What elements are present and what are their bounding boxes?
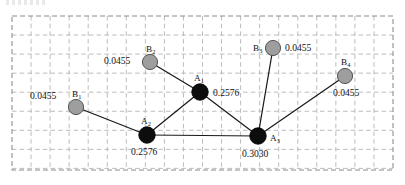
edge-b4-a3: [258, 76, 345, 136]
node-label-b3: B3: [253, 43, 262, 54]
node-a3[interactable]: [250, 128, 266, 144]
edge-a2-a3: [147, 135, 258, 136]
node-label-a1: A1: [194, 73, 204, 84]
node-a1[interactable]: [192, 84, 208, 100]
value-label-a1: 0.2576: [213, 87, 240, 98]
node-label-b2: B2: [146, 44, 155, 55]
node-b4[interactable]: [337, 68, 352, 83]
network-graph: A10.2576A20.2576A30.3030B10.0455B20.0455…: [0, 0, 405, 185]
value-label-b3: 0.0455: [285, 42, 312, 53]
node-b2[interactable]: [142, 54, 157, 69]
value-label-b4: 0.0455: [333, 87, 360, 98]
edge-a1-a3: [200, 92, 258, 136]
node-a2[interactable]: [139, 127, 155, 143]
value-label-b2: 0.0455: [104, 55, 131, 66]
node-b3[interactable]: [265, 40, 280, 55]
node-label-b4: B4: [341, 57, 351, 68]
value-label-b1: 0.0455: [30, 90, 57, 101]
node-label-b1: B1: [72, 89, 81, 100]
edge-b2-a1: [150, 62, 200, 92]
value-label-a2: 0.2576: [131, 146, 158, 157]
edge-a1-a2: [147, 92, 200, 135]
value-label-a3: 0.3030: [242, 148, 269, 159]
figure-container: A10.2576A20.2576A30.3030B10.0455B20.0455…: [0, 0, 405, 185]
node-label-a2: A2: [141, 116, 151, 127]
node-b1[interactable]: [68, 99, 83, 114]
